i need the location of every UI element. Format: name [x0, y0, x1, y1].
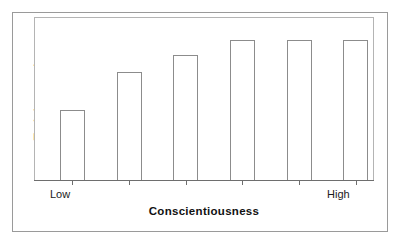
bar-4	[230, 40, 255, 180]
bar-chart-figure: Training grade Low High Conscientiousnes…	[0, 0, 400, 243]
x-tick	[129, 181, 130, 185]
x-tick	[186, 181, 187, 185]
bar-1	[60, 110, 85, 180]
x-tick	[299, 181, 300, 185]
bar-5	[287, 40, 312, 180]
x-tick	[72, 181, 73, 185]
x-axis-ticks	[34, 181, 374, 186]
x-tick	[356, 181, 357, 185]
x-tick-label-low: Low	[50, 188, 70, 200]
bar-6	[343, 40, 368, 180]
bar-2	[117, 72, 142, 180]
x-axis-title: Conscientiousness	[34, 205, 374, 217]
x-tick	[242, 181, 243, 185]
x-tick-label-high: High	[327, 188, 350, 200]
bar-3	[173, 55, 198, 181]
bars-container	[34, 17, 374, 180]
